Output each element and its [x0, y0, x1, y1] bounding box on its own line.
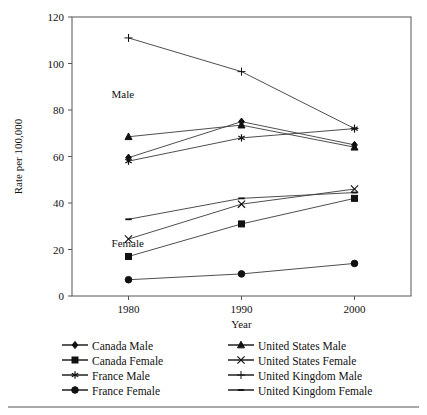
legend-item-france-male: France Male	[62, 370, 150, 382]
series-france-male	[125, 125, 357, 165]
legend-marker-diamond	[72, 341, 78, 348]
data-point	[238, 271, 245, 278]
data-point	[351, 125, 359, 133]
line-chart: 020406080100120198019902000YearRate per …	[0, 0, 427, 415]
legend-label: United States Female	[258, 355, 356, 367]
y-tick-label: 20	[53, 244, 65, 256]
series-line	[129, 38, 355, 129]
chart-legend: Canada MaleUnited States MaleCanada Fema…	[62, 340, 372, 398]
x-tick-label: 1990	[231, 303, 254, 315]
legend-label: United Kingdom Male	[258, 370, 362, 383]
annotation-male: Male	[112, 88, 135, 100]
legend-item-france-female: France Female	[62, 385, 160, 397]
y-tick-label: 80	[53, 104, 65, 116]
y-tick-label: 120	[48, 11, 65, 23]
axes: 020406080100120198019902000YearRate per …	[12, 11, 411, 330]
data-point	[125, 276, 132, 283]
x-axis-title: Year	[231, 318, 252, 330]
legend-item-united-kingdom-female: United Kingdom Female	[228, 385, 372, 398]
legend-label: France Male	[92, 370, 150, 382]
series-line	[129, 189, 355, 239]
data-point	[239, 221, 245, 227]
legend-marker-plus	[237, 371, 245, 379]
y-tick-label: 40	[53, 197, 65, 209]
data-point	[352, 195, 358, 201]
legend-label: Canada Male	[92, 340, 153, 352]
series-layer	[125, 34, 359, 283]
legend-marker-square	[72, 357, 78, 363]
series-france-female	[125, 260, 358, 283]
legend-item-canada-male: Canada Male	[62, 340, 153, 352]
legend-label: United Kingdom Female	[258, 385, 372, 398]
data-point	[351, 260, 358, 267]
legend-label: United States Male	[258, 340, 346, 352]
legend-item-united-states-female: United States Female	[228, 355, 356, 367]
y-axis-title: Rate per 100,000	[12, 118, 24, 194]
legend-item-united-kingdom-male: United Kingdom Male	[228, 370, 362, 383]
y-tick-label: 100	[48, 58, 65, 70]
legend-label: France Female	[92, 385, 160, 397]
data-point	[125, 34, 133, 42]
legend-item-canada-female: Canada Female	[62, 355, 163, 367]
chart-container: 020406080100120198019902000YearRate per …	[0, 0, 427, 415]
annotation-female: Female	[112, 237, 144, 249]
legend-marker-circle	[72, 387, 79, 394]
x-tick-label: 1980	[118, 303, 141, 315]
legend-label: Canada Female	[92, 355, 163, 367]
data-point	[238, 68, 246, 76]
plot-annotations: MaleFemale	[112, 88, 144, 249]
legend-item-united-states-male: United States Male	[228, 340, 346, 352]
x-tick-label: 2000	[344, 303, 367, 315]
plot-area	[72, 17, 411, 296]
y-tick-label: 60	[53, 151, 65, 163]
y-tick-label: 0	[59, 290, 65, 302]
data-point	[126, 253, 132, 259]
